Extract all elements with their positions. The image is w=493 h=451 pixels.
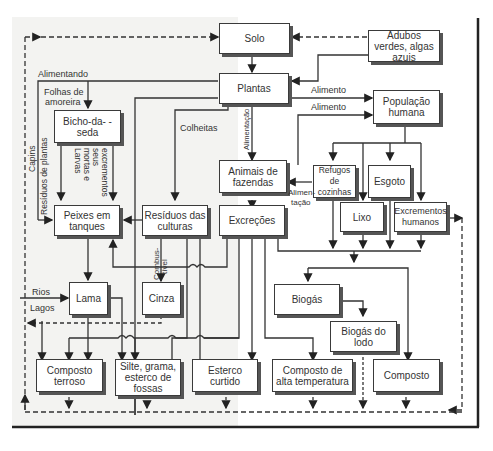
label-alimentando: Alimentando <box>38 69 88 79</box>
node-lixo: Lixo <box>340 202 384 232</box>
node-composto-terroso: Composto terroso <box>36 359 103 392</box>
node-biogas: Biogás <box>274 284 340 315</box>
node-bicho-da-seda: Bicho-da- -seda <box>54 110 121 143</box>
node-refugos: Refugos de cozinhas <box>313 165 356 198</box>
node-esgoto: Esgoto <box>368 165 411 198</box>
node-plantas: Plantas <box>219 73 289 104</box>
label-larvas: Larvas <box>73 148 82 174</box>
node-residuos: Resíduos das culturas <box>142 205 208 236</box>
node-silte: Silte, grama, esterco de fossas <box>115 359 181 396</box>
node-excrecoes: Excreções <box>219 205 285 236</box>
label-seus: seus <box>91 148 100 166</box>
label-alimentacao-vertical: Alimentação <box>242 109 251 150</box>
label-capins: Capins <box>28 146 37 172</box>
label-alimento-1: Alimento <box>311 85 346 95</box>
node-composto-alta: Composto de alta temperatura <box>272 359 353 392</box>
node-peixes: Peixes em tanques <box>54 205 120 236</box>
label-folhas-1: Folhas de <box>44 87 84 97</box>
node-biogas-lodo: Biogás do lodo <box>330 321 397 352</box>
node-esterco: Esterco curtido <box>192 359 258 392</box>
node-animais: Animais de fazendas <box>219 160 287 193</box>
label-mortas: mortas e <box>82 148 91 181</box>
label-rios: Rios <box>32 287 50 297</box>
node-adubos: Adubos verdes, algas azuis <box>368 30 440 62</box>
node-composto: Composto <box>373 359 440 392</box>
label-alimen: Alimen- <box>288 188 315 198</box>
node-lama: Lama <box>69 282 108 315</box>
label-tacao: tação <box>291 198 311 208</box>
label-lagos: Lagos <box>30 303 55 313</box>
node-populacao: População humana <box>373 90 440 124</box>
label-residuos-de-plantas: Resíduos de plantas <box>40 138 49 216</box>
label-folhas-2: amoreira <box>45 97 81 107</box>
label-excrementos: excrementos <box>100 148 109 197</box>
label-combustivel-2: tível <box>160 259 169 274</box>
label-colheitas: Colheitas <box>180 123 218 133</box>
label-alimento-2: Alimento <box>311 102 346 112</box>
node-cinza: Cinza <box>142 282 181 315</box>
node-excrementos: Excrementos humanos <box>394 202 447 232</box>
node-solo: Solo <box>219 23 290 54</box>
